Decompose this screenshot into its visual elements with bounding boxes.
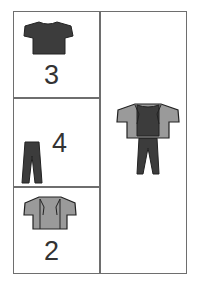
t-shirt-count: 3 — [44, 62, 59, 89]
column-divider — [99, 11, 101, 274]
row-divider-1 — [13, 97, 100, 99]
pants-count: 4 — [52, 130, 67, 157]
row-divider-2 — [13, 186, 100, 188]
full-outfit-icon — [115, 102, 181, 176]
jacket-count: 2 — [44, 238, 59, 265]
pants-icon — [19, 140, 45, 186]
t-shirt-icon — [21, 20, 75, 56]
jacket-icon — [21, 195, 79, 231]
